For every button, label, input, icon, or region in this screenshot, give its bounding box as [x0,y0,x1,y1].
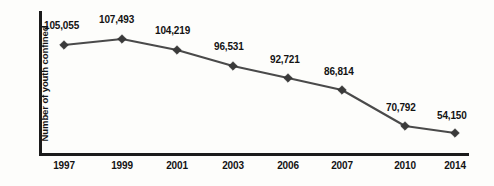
data-point-marker-2010[interactable] [401,122,410,131]
x-axis-tick-label-1999: 1999 [111,160,133,171]
data-point-marker-2007[interactable] [338,86,347,95]
value-label-2007: 86,814 [324,66,354,77]
x-axis-tick-label-2007: 2007 [331,160,353,171]
data-point-marker-2014[interactable] [451,129,460,138]
x-axis-tick-label-2010: 2010 [394,160,416,171]
value-label-2014: 54,150 [437,110,467,121]
value-label-2006: 92,721 [270,54,300,65]
value-label-2003: 96,531 [214,41,244,52]
x-axis-tick-label-2003: 2003 [222,160,244,171]
x-axis-tick-label-1997: 1997 [53,160,75,171]
data-point-marker-2001[interactable] [173,46,182,55]
data-point-marker-1997[interactable] [60,41,69,50]
value-label-1999: 107,493 [99,14,134,25]
x-axis-tick-label-2014: 2014 [444,160,466,171]
x-axis-tick-label-2001: 2001 [166,160,188,171]
data-point-marker-2003[interactable] [229,62,238,71]
data-point-marker-1999[interactable] [118,35,127,44]
series-line-youth-confined [64,39,455,133]
value-label-2001: 104,219 [155,25,190,36]
value-label-2010: 70,792 [386,102,416,113]
chart-screenshot: Number of youth confined 105,055107,4931… [0,0,494,186]
data-point-marker-2006[interactable] [284,74,293,83]
value-label-1997: 105,055 [44,20,79,31]
x-axis-tick-label-2006: 2006 [277,160,299,171]
